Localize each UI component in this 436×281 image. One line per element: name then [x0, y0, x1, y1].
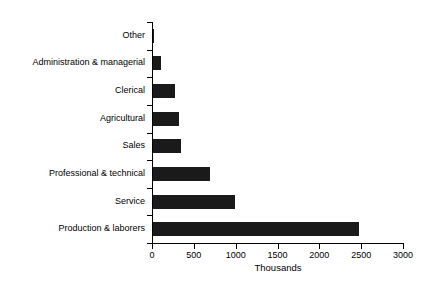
bar [153, 139, 181, 153]
bar [153, 29, 154, 43]
bar-chart: OtherAdministration & managerialClerical… [0, 0, 436, 281]
x-axis-tick [361, 244, 362, 249]
y-axis-tick [147, 188, 152, 189]
y-axis-tick-label: Professional & technical [49, 168, 145, 179]
x-axis-title: Thousands [152, 262, 404, 273]
bar [153, 195, 235, 209]
y-axis-tick-label: Sales [122, 140, 145, 151]
y-axis-tick [147, 215, 152, 216]
x-axis-tick [278, 244, 279, 249]
y-axis-tick [147, 160, 152, 161]
x-axis-tick-label: 3000 [378, 250, 428, 261]
x-axis-tick [194, 244, 195, 249]
bar [153, 84, 175, 98]
y-axis-tick [147, 105, 152, 106]
y-axis-tick [147, 77, 152, 78]
y-axis-tick [147, 50, 152, 51]
x-axis-tick [152, 244, 153, 249]
x-axis-tick [403, 244, 404, 249]
bar [153, 167, 210, 181]
y-axis-line [152, 22, 153, 243]
x-axis-tick [319, 244, 320, 249]
y-axis-tick [147, 133, 152, 134]
y-axis-tick-label: Other [122, 30, 145, 41]
bar [153, 112, 179, 126]
y-axis-tick-label: Agricultural [100, 113, 145, 124]
y-axis-tick-label: Production & laborers [58, 223, 145, 234]
y-axis-tick-label: Service [115, 196, 145, 207]
x-axis-tick [236, 244, 237, 249]
y-axis-tick-label: Clerical [115, 85, 145, 96]
y-axis-tick-label: Administration & managerial [32, 57, 145, 68]
bar [153, 56, 161, 70]
bar [153, 222, 359, 236]
y-axis-tick [147, 22, 152, 23]
